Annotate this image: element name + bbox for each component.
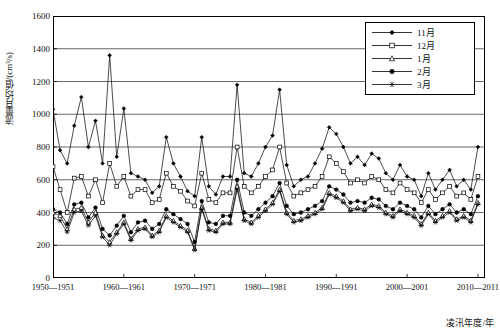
legend-marker-icon (370, 26, 414, 39)
y-tick-label: 1200 (32, 77, 50, 87)
x-tick-label: 1980—1981 (244, 282, 287, 292)
chart-container: 流量月均值/(cm³/s) 凌汛年度/年 0200400600800100012… (0, 0, 500, 333)
y-axis-title: 流量月均值/(cm³/s) (2, 52, 18, 125)
legend-item-1月: 1月 (370, 52, 470, 65)
legend-marker-icon (370, 39, 414, 52)
y-tick-label: 600 (37, 175, 51, 185)
y-tick-label: 800 (37, 142, 51, 152)
legend-marker-icon (370, 65, 414, 78)
x-axis-title: 凌汛年度/年 (446, 316, 494, 329)
legend-item-11月: 11月 (370, 26, 470, 39)
legend-item-12月: 12月 (370, 39, 470, 52)
y-tick-label: 200 (37, 240, 51, 250)
legend-marker-icon (370, 52, 414, 65)
y-tick-label: 1600 (32, 11, 50, 21)
series-3月 (53, 187, 480, 252)
legend-marker-icon (370, 78, 414, 91)
y-tick-label: 400 (37, 208, 51, 218)
x-tick-label: 2000—2001 (386, 282, 429, 292)
x-axis-tick-labels: 1950—19511960—19611970—19711980—19811990… (0, 282, 500, 296)
legend-label: 3月 (414, 78, 431, 91)
x-tick-label: 1960—1961 (103, 282, 146, 292)
x-tick-label: 2010—2011 (457, 282, 499, 292)
x-tick-label: 1950—1951 (32, 282, 75, 292)
x-tick-label: 1970—1971 (173, 282, 216, 292)
legend-label: 12月 (414, 39, 435, 52)
y-axis-tick-labels: 02004006008001000120014001600 (20, 16, 50, 278)
x-tick-label: 1990—1991 (315, 282, 358, 292)
legend-item-3月: 3月 (370, 78, 470, 91)
chart-legend: 11月12月1月2月3月 (365, 22, 475, 95)
legend-item-2月: 2月 (370, 65, 470, 78)
legend-label: 11月 (414, 26, 435, 39)
y-tick-label: 1400 (32, 44, 50, 54)
legend-label: 1月 (414, 52, 431, 65)
y-tick-label: 1000 (32, 109, 50, 119)
legend-label: 2月 (414, 65, 431, 78)
